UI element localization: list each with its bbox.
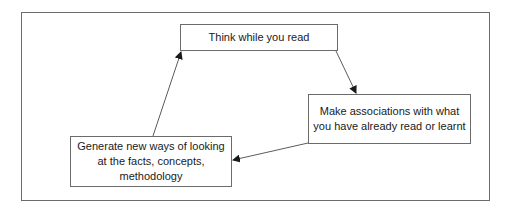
node-generate-new-ways: Generate new ways of looking at the fact… [70,136,232,187]
node-label: Generate new ways of looking at the fact… [75,139,227,184]
node-label: Think while you read [209,30,310,45]
node-make-associations: Make associations with what you have alr… [308,94,471,144]
node-think-while-you-read: Think while you read [180,24,338,51]
node-label: Make associations with what you have alr… [313,104,466,134]
